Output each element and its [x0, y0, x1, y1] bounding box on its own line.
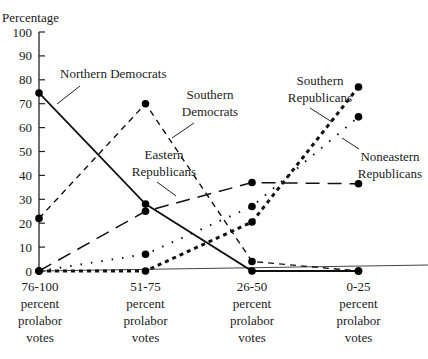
data-point — [142, 100, 150, 108]
x-axis-labels: 76-100percentprolaborvotes51-75percentpr… — [18, 279, 381, 345]
leader-line — [342, 138, 359, 149]
series-line-southern-democrats — [39, 104, 359, 271]
label-northern-democrats: Northern Democrats — [60, 66, 167, 81]
series-line-noneastern-republicans — [39, 117, 359, 271]
leader-line — [57, 86, 80, 104]
data-point — [355, 83, 363, 91]
label-noneastern-republicans: NoneasternRepublicans — [358, 149, 422, 181]
leader-line — [157, 182, 176, 196]
data-point — [35, 89, 43, 97]
line-chart: Percentage 0102030405060708090100 76-100… — [0, 0, 428, 359]
data-point — [142, 200, 150, 208]
x-tick-label: 76-100percentprolaborvotes — [18, 279, 63, 345]
data-point — [142, 207, 150, 215]
series-labels: Northern DemocratsSouthernDemocratsEaste… — [57, 66, 422, 196]
data-point — [355, 113, 363, 121]
x-tick-label: 51-75percentprolaborvotes — [123, 279, 168, 345]
y-tick-label: 10 — [19, 240, 32, 255]
data-point — [142, 267, 150, 275]
y-tick-label: 20 — [19, 216, 32, 231]
y-axis-title: Percentage — [2, 10, 59, 25]
y-tick-label: 100 — [13, 25, 33, 40]
series-line-eastern-republicans — [39, 183, 359, 271]
data-point — [248, 203, 256, 211]
data-point — [248, 179, 256, 187]
y-axis-ticks: 0102030405060708090100 — [13, 25, 46, 279]
y-tick-label: 60 — [19, 120, 32, 135]
y-tick-label: 40 — [19, 168, 32, 183]
data-point — [248, 218, 256, 226]
y-tick-label: 30 — [19, 192, 32, 207]
label-eastern-republicans: EasternRepublicans — [132, 147, 196, 179]
data-point — [355, 267, 363, 275]
label-southern-democrats: SouthernDemocrats — [182, 87, 238, 119]
x-tick-label: 26-50percentprolaborvotes — [230, 279, 275, 345]
y-tick-label: 50 — [19, 144, 32, 159]
data-point — [35, 267, 43, 275]
y-tick-label: 0 — [26, 264, 33, 279]
y-tick-label: 90 — [19, 48, 32, 63]
data-point — [142, 250, 150, 258]
label-southern-republicans: SouthernRepublicans — [288, 73, 352, 105]
data-point — [35, 215, 43, 223]
y-tick-label: 80 — [19, 72, 32, 87]
leader-line — [172, 123, 194, 138]
data-point — [248, 258, 256, 266]
data-point — [248, 267, 256, 275]
data-point — [355, 180, 363, 188]
y-tick-label: 70 — [19, 96, 32, 111]
x-tick-label: 0-25percentprolaborvotes — [336, 279, 381, 345]
leader-line — [310, 108, 332, 122]
